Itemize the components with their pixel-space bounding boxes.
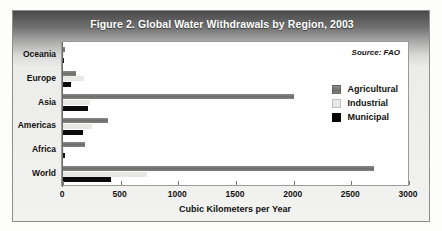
bar-africa-industrial xyxy=(63,148,64,153)
category-label-americas: Americas xyxy=(18,120,56,130)
bar-europe-industrial xyxy=(63,76,84,81)
bar-oceania-agricultural xyxy=(63,47,65,52)
x-tick-3000 xyxy=(409,181,410,185)
x-tick-1000 xyxy=(178,181,179,185)
legend-label-municipal: Municipal xyxy=(347,112,389,122)
x-axis-title: Cubic Kilometers per Year xyxy=(61,204,409,214)
figure-frame: Figure 2. Global Water Withdrawals by Re… xyxy=(12,10,430,222)
x-tick-label-3000: 3000 xyxy=(399,189,418,199)
legend-item-agricultural: Agricultural xyxy=(332,84,398,94)
bar-world-municipal xyxy=(63,177,111,182)
x-tick-2000 xyxy=(294,181,295,185)
legend-swatch-industrial xyxy=(332,99,341,108)
x-tick-label-0: 0 xyxy=(60,189,65,199)
figure-page: Figure 2. Global Water Withdrawals by Re… xyxy=(0,0,442,231)
bar-africa-agricultural xyxy=(63,142,85,147)
category-label-world: World xyxy=(32,168,56,178)
bar-americas-municipal xyxy=(63,130,83,135)
bar-asia-industrial xyxy=(63,100,90,105)
x-tick-500 xyxy=(121,181,122,185)
legend-swatch-agricultural xyxy=(332,85,341,94)
x-tick-1500 xyxy=(236,181,237,185)
bar-asia-municipal xyxy=(63,106,88,111)
x-tick-label-1000: 1000 xyxy=(168,189,187,199)
bar-world-agricultural xyxy=(63,166,374,171)
source-note: Source: FAO xyxy=(352,48,400,57)
bar-oceania-industrial xyxy=(63,52,64,57)
x-tick-label-2000: 2000 xyxy=(283,189,302,199)
category-axis-labels: OceaniaEuropeAsiaAmericasAfricaWorld xyxy=(13,41,59,186)
legend-swatch-municipal xyxy=(332,113,341,122)
chart-legend: AgriculturalIndustrialMunicipal xyxy=(332,84,398,126)
bar-asia-agricultural xyxy=(63,94,294,99)
legend-item-municipal: Municipal xyxy=(332,112,398,122)
category-label-oceania: Oceania xyxy=(23,49,56,59)
x-tick-label-2500: 2500 xyxy=(341,189,360,199)
bar-americas-industrial xyxy=(63,124,92,129)
category-label-europe: Europe xyxy=(27,73,56,83)
x-tick-0 xyxy=(63,181,64,185)
legend-label-industrial: Industrial xyxy=(347,98,388,108)
bar-oceania-municipal xyxy=(63,58,64,63)
category-label-asia: Asia xyxy=(38,97,56,107)
bar-europe-agricultural xyxy=(63,71,76,76)
x-tick-label-500: 500 xyxy=(113,189,127,199)
x-tick-label-1500: 1500 xyxy=(226,189,245,199)
category-label-africa: Africa xyxy=(32,144,56,154)
legend-item-industrial: Industrial xyxy=(332,98,398,108)
page-title: Figure 2. Global Water Withdrawals by Re… xyxy=(13,18,430,30)
bar-world-industrial xyxy=(63,172,147,177)
plot-area: Source: FAO AgriculturalIndustrialMunici… xyxy=(61,41,409,186)
bar-europe-municipal xyxy=(63,82,71,87)
bar-americas-agricultural xyxy=(63,118,108,123)
x-tick-2500 xyxy=(351,181,352,185)
bar-africa-municipal xyxy=(63,153,65,158)
legend-label-agricultural: Agricultural xyxy=(347,84,398,94)
